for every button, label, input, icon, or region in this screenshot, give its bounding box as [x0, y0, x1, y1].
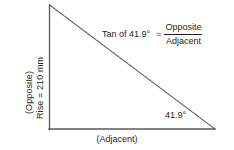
fraction-denominator: Adjacent: [165, 35, 202, 47]
trigonometry-diagram: (Opposite) Rise = 210 mm (Adjacent) 41.9…: [0, 0, 234, 150]
opposite-side-label: (Opposite): [24, 71, 34, 114]
rise-measurement-label: Rise = 210 mm: [35, 57, 45, 119]
equals-sign: =: [153, 29, 164, 40]
equation-left-hand-side: Tan of 41.9°: [102, 29, 153, 40]
angle-label: 41.9°: [165, 110, 186, 121]
tangent-equation: Tan of 41.9° = Opposite Adjacent: [102, 22, 202, 47]
adjacent-side-label: (Adjacent): [0, 134, 234, 145]
ratio-fraction: Opposite Adjacent: [164, 22, 202, 47]
fraction-numerator: Opposite: [164, 22, 202, 34]
